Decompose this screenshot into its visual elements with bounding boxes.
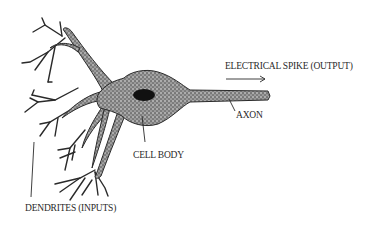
axon-label: AXON: [236, 110, 263, 120]
output-arrow-icon: [226, 76, 265, 82]
dendrites-label: DENDRITES (INPUTS): [25, 203, 116, 213]
neuron-diagram: ELECTRICAL SPIKE (OUTPUT) AXON CELL BODY…: [0, 0, 391, 227]
output-label: ELECTRICAL SPIKE (OUTPUT): [225, 61, 353, 71]
nucleus: [133, 89, 155, 101]
cell-body-label: CELL BODY: [133, 150, 184, 160]
neuron-illustration: [0, 0, 391, 227]
dendrites-leader: [31, 142, 34, 197]
